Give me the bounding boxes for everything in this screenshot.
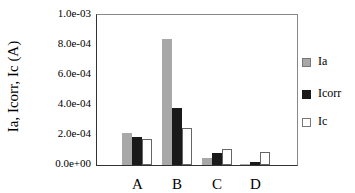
bar [222,149,232,166]
x-category: B [172,176,182,193]
bar [240,164,250,166]
legend-label: Ic [318,114,327,129]
legend-label: Icorr [318,86,341,101]
legend-swatch-ic [302,118,311,127]
bar [260,152,270,165]
x-category: D [250,176,261,193]
bar [172,108,182,165]
x-category: A [132,176,143,193]
bar [162,39,172,165]
y-tick: 0.0e+00 [55,157,91,169]
bar [122,133,132,165]
y-tick: 6.0e-04 [58,67,91,79]
y-tick: 2.0e-04 [58,127,91,139]
plot-area [96,14,298,166]
bar [212,153,222,165]
legend-swatch-ia [302,58,311,67]
legend-swatch-icorr [302,90,311,99]
x-category: C [212,176,222,193]
bar [132,137,142,166]
bar [250,162,260,165]
bar [142,139,152,165]
y-tick: 4.0e-04 [58,97,91,109]
bar [182,128,192,166]
y-axis-label: Ia, Icorr, Ic (A) [5,32,22,142]
y-tick: 8.0e-04 [58,37,91,49]
legend-label: Ia [318,54,327,69]
y-tick: 1.0e-03 [58,7,91,19]
bar [202,158,212,166]
